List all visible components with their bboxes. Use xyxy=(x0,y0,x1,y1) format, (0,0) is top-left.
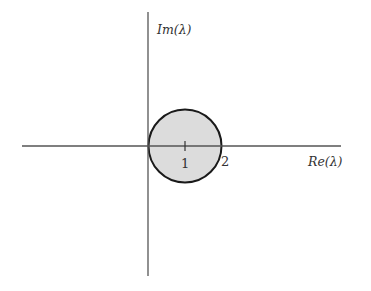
complex-plane-diagram: 1 2 Re(λ) Im(λ) xyxy=(0,0,371,291)
y-axis-label: Im(λ) xyxy=(156,22,192,37)
tick-label-2: 2 xyxy=(221,154,229,169)
tick-label-1: 1 xyxy=(181,156,189,171)
x-axis-label: Re(λ) xyxy=(307,154,343,169)
